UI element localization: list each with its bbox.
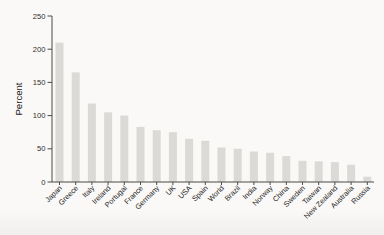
bar-australia bbox=[347, 165, 355, 182]
bar-russia bbox=[363, 177, 371, 182]
y-axis-title: Percent bbox=[13, 82, 24, 115]
y-tick-label: 250 bbox=[33, 12, 46, 21]
x-tick-label-brazil: Brazil bbox=[223, 183, 243, 203]
bar-france bbox=[137, 127, 145, 182]
y-tick-label: 0 bbox=[41, 178, 45, 187]
bar-italy bbox=[88, 104, 96, 182]
bar-uk bbox=[169, 132, 177, 182]
bar-greece bbox=[72, 72, 80, 182]
bar-world bbox=[218, 148, 226, 183]
bar-brazil bbox=[234, 149, 242, 182]
bar-new-zealand bbox=[331, 162, 339, 182]
bar-india bbox=[250, 152, 258, 183]
y-tick-label: 100 bbox=[33, 111, 46, 120]
x-tick-label-spain: Spain bbox=[190, 184, 210, 204]
chart-figure: 050100150200250JapanGreeceItalyIrelandPo… bbox=[0, 0, 384, 235]
bar-china bbox=[282, 156, 290, 182]
x-tick-label-world: World bbox=[206, 184, 226, 204]
x-tick-label-russia: Russia bbox=[349, 183, 372, 206]
y-tick-label: 150 bbox=[33, 78, 46, 87]
bar-ireland bbox=[104, 112, 112, 182]
bar-germany bbox=[153, 130, 161, 182]
bar-portugal bbox=[120, 116, 128, 182]
x-tick-label-uk: UK bbox=[164, 184, 178, 198]
bar-norway bbox=[266, 153, 274, 182]
bar-taiwan bbox=[315, 161, 323, 182]
bar-chart: 050100150200250JapanGreeceItalyIrelandPo… bbox=[0, 0, 384, 235]
y-tick-label: 200 bbox=[33, 45, 46, 54]
y-tick-label: 50 bbox=[37, 144, 45, 153]
bar-usa bbox=[185, 139, 193, 182]
bar-spain bbox=[201, 141, 209, 182]
bar-sweden bbox=[299, 161, 307, 182]
bar-japan bbox=[56, 43, 64, 182]
